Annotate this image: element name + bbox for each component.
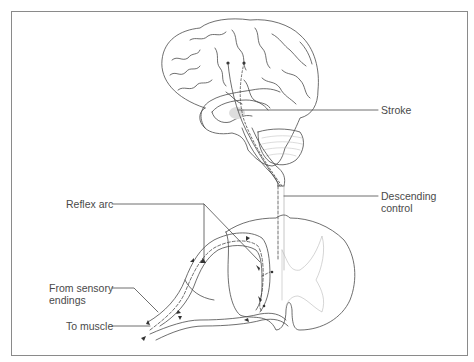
brainstem — [242, 128, 285, 186]
label-descending-control: Descending control — [381, 190, 436, 214]
label-descending-line1: Descending — [381, 190, 436, 202]
nervous-system-illustration — [0, 0, 474, 362]
ventral-root — [150, 313, 288, 340]
dorsal-root — [148, 233, 270, 326]
label-from-sensory-line2: endings — [49, 294, 113, 306]
label-stroke: Stroke — [381, 104, 411, 116]
label-descending-line2: control — [381, 202, 436, 214]
grey-matter — [282, 236, 324, 312]
label-from-sensory-endings: From sensory endings — [49, 282, 113, 306]
label-from-sensory-line1: From sensory — [49, 282, 113, 294]
label-to-muscle: To muscle — [66, 320, 113, 332]
label-reflex-arc: Reflex arc — [66, 198, 113, 210]
spinal-cord-section — [226, 215, 355, 330]
